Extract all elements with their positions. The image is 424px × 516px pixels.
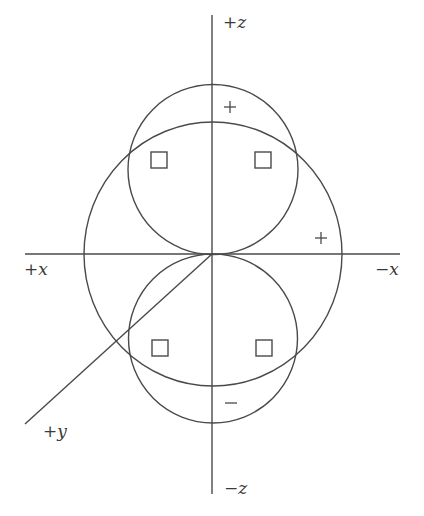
pos-z-label: +z [223, 12, 247, 32]
lower-lobe [129, 254, 298, 423]
plus-sign-upper-lobe [224, 101, 236, 113]
neg-x-label: −x [375, 259, 399, 279]
orbital-diagram: +z −z +x −x +y [0, 0, 424, 516]
pos-y-label: +y [43, 421, 67, 441]
node-marker-upper-left [151, 152, 167, 168]
node-marker-lower-left [152, 340, 168, 356]
upper-lobe [128, 85, 298, 255]
neg-z-label: −z [224, 478, 248, 498]
node-marker-upper-right [255, 152, 271, 168]
y-axis [25, 254, 212, 424]
pos-x-label: +x [24, 259, 48, 279]
node-marker-lower-right [256, 340, 272, 356]
plus-sign-outer-sphere [315, 232, 327, 244]
